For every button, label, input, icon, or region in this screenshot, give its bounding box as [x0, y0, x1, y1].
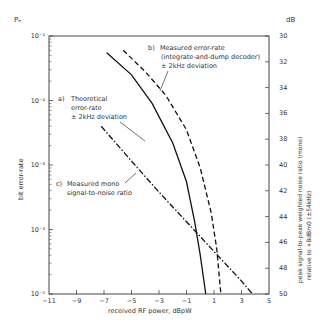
y2-axis-label-line1: peak signal-to-peak weighted noise ratio… — [296, 137, 304, 283]
annotation-c-arrow — [125, 173, 136, 183]
annotation-b: b) Measured error-rate (integrate-and-du… — [148, 44, 260, 91]
x-tick-label: −5 — [127, 297, 137, 305]
x-tick-label: −11 — [42, 297, 56, 305]
annotation-a-arrow — [120, 122, 145, 141]
y2-tick-label: 46 — [279, 238, 287, 246]
y-axis-top-label: Pₑ — [14, 16, 21, 24]
y2-axis-unit: dB — [286, 16, 295, 24]
x-tick-label: 1 — [212, 297, 216, 305]
chart: −11−9−7−5−3−1135 10⁻¹10⁻²10⁻³10⁻⁴10⁻⁵ 30… — [0, 0, 324, 332]
y-axis-label: bit error-rate — [17, 159, 25, 200]
series-line-a — [107, 53, 206, 294]
y2-tick-label: 32 — [279, 58, 287, 66]
y2-tick-label: 38 — [279, 135, 287, 143]
series-line-c — [101, 126, 252, 294]
y-axis-left: 10⁻¹10⁻²10⁻³10⁻⁴10⁻⁵ — [31, 32, 53, 298]
annotation-a-label: a) — [58, 95, 65, 103]
annotation-b-line1: Measured error-rate — [160, 44, 225, 52]
y2-tick-label: 48 — [279, 264, 287, 272]
y-axis-right: 3032343638404244464850 — [265, 32, 287, 298]
y2-tick-label: 36 — [279, 109, 287, 117]
x-tick-label: −9 — [72, 297, 82, 305]
y-tick-label: 10⁻³ — [31, 161, 46, 169]
y2-tick-label: 50 — [279, 290, 287, 298]
x-tick-label: −1 — [182, 297, 192, 305]
annotation-c-line2: signal-to-noise ratio — [67, 189, 132, 197]
y2-axis-label-line2: relative to +8dBm0 (±54kHz) — [305, 191, 312, 280]
annotation-b-line2: (integrate-and-dump decoder) — [161, 53, 260, 61]
x-tick-label: −3 — [154, 297, 164, 305]
y-tick-label: 10⁻² — [31, 97, 46, 105]
y-tick-label: 10⁻⁴ — [31, 226, 46, 234]
annotation-a-line1: Theoretical — [70, 95, 108, 103]
x-tick-label: 5 — [267, 297, 271, 305]
annotation-c-line1: Measured mono — [67, 180, 119, 188]
annotation-b-label: b) — [148, 44, 155, 52]
y2-tick-label: 40 — [279, 161, 287, 169]
x-tick-label: 3 — [239, 297, 243, 305]
y2-tick-label: 42 — [279, 187, 287, 195]
annotation-c-label: c) — [56, 180, 62, 188]
x-tick-label: −7 — [99, 297, 109, 305]
annotation-a: a) Theoretical error-rate ± 2kHz deviati… — [58, 95, 145, 141]
x-axis-label: received RF power, dBpW — [108, 307, 192, 315]
y-tick-label: 10⁻¹ — [31, 32, 46, 40]
annotation-a-line2: error-rate — [71, 104, 102, 112]
y-tick-label: 10⁻⁵ — [31, 290, 46, 298]
annotation-c: c) Measured mono signal-to-noise ratio — [56, 173, 136, 197]
series-group — [101, 50, 252, 294]
y2-tick-label: 34 — [279, 84, 287, 92]
x-axis: −11−9−7−5−3−1135 — [42, 290, 271, 305]
y2-tick-label: 30 — [279, 32, 287, 40]
plot-frame — [49, 36, 269, 294]
annotation-b-line3: ± 2kHz deviation — [161, 62, 217, 70]
annotation-a-line3: ± 2kHz deviation — [71, 113, 127, 121]
annotation-b-arrow — [160, 71, 168, 91]
series-line-b — [123, 50, 221, 294]
y2-tick-label: 44 — [279, 213, 287, 221]
